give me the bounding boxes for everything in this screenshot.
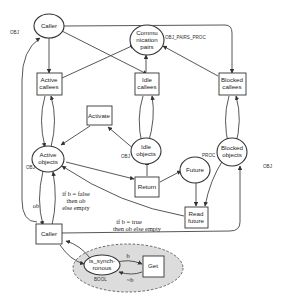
transition-activate: Activate (87, 106, 112, 125)
transition-active-callees: Active callees (37, 73, 62, 95)
edge-label-not-b: ~b (127, 276, 134, 283)
edge-label-cond-false-2: then ob (67, 197, 86, 204)
place-idle-objects: Idle objects (131, 138, 161, 164)
edge-label-ob: ob (33, 202, 39, 209)
svg-text:Idle: Idle (142, 76, 153, 83)
svg-text:Active: Active (41, 76, 58, 83)
place-active-objects: Active objects (32, 146, 64, 172)
idle-objects-type-label: OBJ (121, 154, 130, 159)
svg-text:future: future (188, 217, 204, 224)
svg-text:Blocked: Blocked (221, 76, 244, 83)
svg-text:Active: Active (40, 151, 57, 158)
svg-text:callees: callees (222, 83, 241, 90)
svg-text:Get: Get (148, 262, 158, 269)
blocked-objects-type-label: OBJ (263, 164, 272, 169)
svg-text:nication: nication (136, 36, 158, 43)
svg-text:callees: callees (39, 83, 58, 90)
svg-text:Idle: Idle (141, 143, 152, 150)
svg-text:objects: objects (38, 158, 58, 165)
transition-blocked-callees: Blocked callees (219, 73, 246, 95)
place-communication-pairs: Commu nication pairs (130, 25, 164, 55)
communication-pairs-type-label: OBJ_PAIRS_PROC (165, 35, 206, 40)
place-future: Future (180, 157, 210, 183)
svg-text:objects: objects (136, 150, 156, 157)
transition-get: Get (143, 256, 164, 277)
edge-label-cond-false-3: else empty (62, 204, 90, 211)
svg-text:Activate: Activate (88, 112, 111, 119)
edge-label-cond-true-2: then ob else empty (113, 225, 162, 232)
place-is-synchronous: is_synch- ronous (84, 255, 120, 275)
svg-text:pairs: pairs (140, 43, 153, 50)
place-blocked-objects: Blocked objects (217, 138, 247, 166)
petri-net-diagram: Caller OBJ Commu nication pairs OBJ_PAIR… (0, 0, 287, 304)
transition-idle-callees: Idle callees (135, 73, 159, 95)
svg-text:Read: Read (189, 210, 204, 217)
edge-label-cond-false-1: if b = false (62, 190, 90, 197)
svg-text:ronous: ronous (93, 264, 112, 271)
transition-return: Return (135, 177, 159, 197)
svg-text:Future: Future (186, 166, 204, 173)
svg-text:callees: callees (137, 83, 156, 90)
svg-text:objects: objects (222, 151, 242, 158)
active-objects-type-label: OBJ (26, 165, 35, 170)
future-type-label: PROC (202, 153, 216, 158)
caller-top-type-label: OBJ (10, 30, 19, 35)
svg-text:Commu: Commu (136, 29, 158, 36)
transition-caller-bottom: Caller (36, 224, 62, 244)
svg-text:Caller: Caller (41, 22, 57, 29)
is-synchronous-type-label: BOOL (94, 277, 107, 282)
edge-label-cond-true-1: if b = true (116, 218, 142, 225)
edge-label-b: b (126, 252, 129, 259)
svg-text:Caller: Caller (41, 230, 57, 237)
place-caller-top: Caller (34, 14, 64, 38)
transition-read-future: Read future (185, 207, 208, 228)
svg-text:is_synch-: is_synch- (89, 257, 115, 264)
svg-text:Blocked: Blocked (221, 144, 244, 151)
svg-text:Return: Return (138, 183, 157, 190)
